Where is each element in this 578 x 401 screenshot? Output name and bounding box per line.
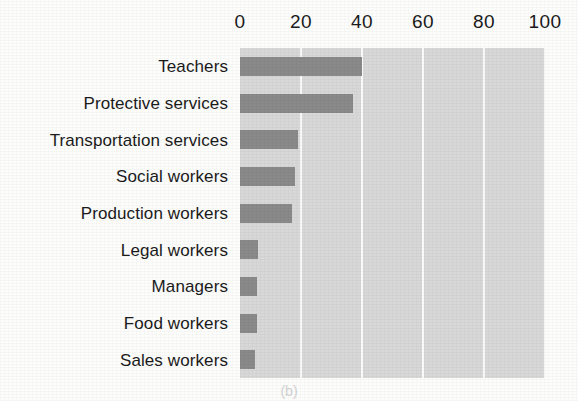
bar bbox=[240, 167, 295, 186]
gridline bbox=[544, 48, 546, 378]
bar bbox=[240, 130, 298, 149]
chart-figure: 020406080100 TeachersProtective services… bbox=[0, 0, 578, 401]
gridline bbox=[361, 48, 363, 378]
bar bbox=[240, 350, 255, 369]
y-axis-category-label: Teachers bbox=[158, 58, 228, 75]
y-axis-category-labels: TeachersProtective servicesTransportatio… bbox=[0, 48, 236, 378]
y-axis-category-label: Sales workers bbox=[120, 351, 228, 368]
x-axis-tick-label: 40 bbox=[351, 12, 373, 31]
y-axis-category-label: Transportation services bbox=[50, 131, 228, 148]
gridline bbox=[422, 48, 424, 378]
bar bbox=[240, 314, 257, 333]
y-axis-category-label: Legal workers bbox=[121, 241, 228, 258]
x-axis-tick-label: 80 bbox=[473, 12, 495, 31]
y-axis-category-label: Production workers bbox=[81, 205, 228, 222]
x-axis-tick-label: 60 bbox=[412, 12, 434, 31]
y-axis-category-label: Protective services bbox=[83, 95, 228, 112]
bar bbox=[240, 240, 258, 259]
x-axis-tick-label: 100 bbox=[528, 12, 561, 31]
x-axis-tick-label: 0 bbox=[234, 12, 245, 31]
y-axis-category-label: Food workers bbox=[124, 315, 228, 332]
plot-area bbox=[240, 48, 545, 378]
y-axis-category-label: Social workers bbox=[116, 168, 228, 185]
bar bbox=[240, 204, 292, 223]
figure-caption: (b) bbox=[0, 384, 578, 398]
bar bbox=[240, 94, 353, 113]
y-axis-category-label: Managers bbox=[152, 278, 228, 295]
gridline bbox=[483, 48, 485, 378]
bar bbox=[240, 57, 362, 76]
x-axis-tick-row: 020406080100 bbox=[0, 0, 578, 48]
x-axis-tick-label: 20 bbox=[290, 12, 312, 31]
bar bbox=[240, 277, 257, 296]
